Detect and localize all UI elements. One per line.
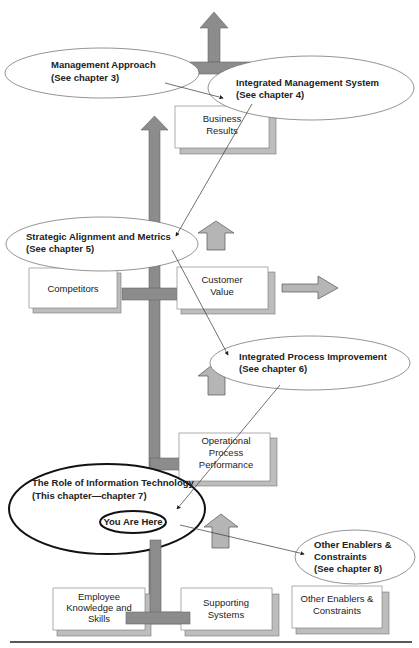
middle-crossbar <box>122 288 186 300</box>
ellipse-label: Constraints <box>314 551 367 562</box>
up-arrow-icon <box>198 221 234 250</box>
pillar-lower-segment <box>150 540 161 615</box>
ellipse-integrated-management-system: Integrated Management System (See chapte… <box>208 56 414 120</box>
box-label: Business <box>203 113 242 124</box>
box-label: Competitors <box>47 283 98 294</box>
ellipse-label: Integrated Management System <box>236 77 379 88</box>
box-label: Skills <box>88 613 110 624</box>
box-label: Results <box>206 125 238 136</box>
box-label: Customer <box>201 274 242 285</box>
ellipse-label: The Role of Information Technology <box>32 477 195 488</box>
box-label: Operational <box>201 435 250 446</box>
box-label: Value <box>210 286 234 297</box>
box-other-enablers: Other Enablers & Constraints <box>292 586 389 634</box>
diagram-canvas: Business Results Competitors Customer Va… <box>0 0 419 648</box>
ellipse-management-approach: Management Approach (See chapter 3) <box>5 48 199 98</box>
box-supporting-systems: Supporting Systems <box>181 588 279 636</box>
bottom-crossbar-front <box>126 612 190 624</box>
box-label: Constraints <box>313 605 361 616</box>
ellipse-label: (This chapter—chapter 7) <box>32 490 147 501</box>
ellipse-strategic-alignment: Strategic Alignment and Metrics (See cha… <box>6 217 198 271</box>
ellipse-label: (See chapter 4) <box>236 89 304 100</box>
box-customer-value: Customer Value <box>177 267 275 314</box>
box-competitors: Competitors <box>29 268 121 313</box>
ellipse-label: (See chapter 6) <box>239 363 307 374</box>
right-arrow-icon <box>282 276 338 299</box>
box-label: Supporting <box>203 597 249 608</box>
ellipse-other-enablers: Other Enablers & Constraints (See chapte… <box>295 530 415 584</box>
ellipse-label: Other Enablers & <box>314 539 392 550</box>
ellipse-role-of-it: The Role of Information Technology (This… <box>9 464 205 554</box>
box-label: Performance <box>199 459 253 470</box>
ellipse-you-are-here: You Are Here <box>100 511 166 533</box>
ellipse-label: Strategic Alignment and Metrics <box>26 231 171 242</box>
ellipse-label: (See chapter 5) <box>26 243 94 254</box>
box-label: Systems <box>208 609 245 620</box>
you-are-here-label: You Are Here <box>103 516 162 527</box>
box-label: Other Enablers & <box>301 593 375 604</box>
ellipse-label: (See chapter 3) <box>51 72 119 83</box>
box-label: Employee <box>78 591 120 602</box>
top-up-arrow-icon <box>200 12 228 62</box>
ellipse-integrated-process-improvement: Integrated Process Improvement (See chap… <box>210 336 410 390</box>
up-arrow-icon <box>204 514 238 548</box>
ellipse-label: Management Approach <box>51 59 156 70</box>
box-label: Process <box>209 447 244 458</box>
ellipse-label: Integrated Process Improvement <box>239 351 388 362</box>
ellipse-label: (See chapter 8) <box>314 563 382 574</box>
box-label: Knowledge and <box>66 602 132 613</box>
